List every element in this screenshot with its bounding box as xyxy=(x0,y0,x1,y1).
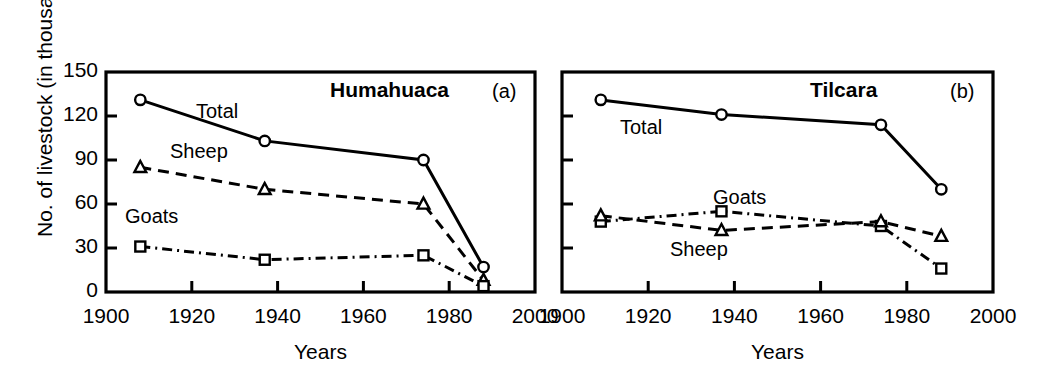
series-label-goats: Goats xyxy=(713,186,766,209)
series-label-total: Total xyxy=(196,100,238,123)
y-tick-label: 60 xyxy=(40,190,98,214)
data-point-marker-circle xyxy=(478,262,488,272)
data-point-marker-triangle xyxy=(935,230,947,241)
data-point-marker-square xyxy=(260,255,270,265)
data-point-marker-triangle xyxy=(595,209,607,220)
data-point-marker-circle xyxy=(418,155,428,165)
x-tick-label: 1900 xyxy=(527,304,597,328)
x-tick-label: 1980 xyxy=(872,304,942,328)
data-point-marker-square xyxy=(479,281,489,291)
data-point-marker-circle xyxy=(716,109,726,119)
x-tick-label: 1980 xyxy=(414,304,484,328)
x-tick-label: 1920 xyxy=(157,304,227,328)
series-label-goats: Goats xyxy=(125,205,178,228)
data-point-marker-square xyxy=(876,221,886,231)
data-point-marker-square xyxy=(936,264,946,274)
plot-frame xyxy=(562,72,993,292)
x-tick-label: 1900 xyxy=(71,304,141,328)
panel-title-humahuaca: Humahuaca xyxy=(330,78,449,102)
y-tick-label: 120 xyxy=(40,102,98,126)
data-point-marker-triangle xyxy=(134,161,146,172)
y-tick-label: 0 xyxy=(40,278,98,302)
data-point-marker-circle xyxy=(260,136,270,146)
data-point-marker-triangle xyxy=(875,215,887,226)
data-point-marker-square xyxy=(596,217,606,227)
x-tick-label: 1960 xyxy=(786,304,856,328)
figure-root: No. of livestock (in thousands) Humahuac… xyxy=(0,0,1045,386)
x-axis-title: Years xyxy=(276,340,366,364)
data-point-marker-circle xyxy=(876,120,886,130)
x-tick-label: 1920 xyxy=(613,304,683,328)
y-tick-label: 90 xyxy=(40,146,98,170)
data-point-marker-triangle xyxy=(478,274,490,285)
data-point-marker-circle xyxy=(936,184,946,194)
plot-canvas xyxy=(0,0,1045,386)
panel-tag-b: (b) xyxy=(950,80,974,103)
series-line-sheep xyxy=(140,167,483,280)
x-tick-label: 1940 xyxy=(699,304,769,328)
series-label-sheep: Sheep xyxy=(670,238,728,261)
series-line-total xyxy=(601,100,942,189)
data-point-marker-square xyxy=(135,242,145,252)
series-label-total: Total xyxy=(620,116,662,139)
data-point-marker-square xyxy=(418,250,428,260)
y-tick-label: 150 xyxy=(40,58,98,82)
y-tick-label: 30 xyxy=(40,234,98,258)
panel-title-tilcara: Tilcara xyxy=(810,78,877,102)
data-point-marker-triangle xyxy=(418,198,430,209)
plot-frame xyxy=(106,72,535,292)
data-point-marker-circle xyxy=(135,95,145,105)
series-line-sheep xyxy=(601,216,942,237)
data-point-marker-triangle xyxy=(259,183,271,194)
series-label-sheep: Sheep xyxy=(170,140,228,163)
x-tick-label: 2000 xyxy=(958,304,1028,328)
series-line-total xyxy=(140,100,483,267)
x-axis-title: Years xyxy=(733,340,823,364)
data-point-marker-circle xyxy=(596,95,606,105)
x-tick-label: 1940 xyxy=(243,304,313,328)
data-point-marker-triangle xyxy=(716,224,728,235)
series-line-goats xyxy=(140,247,483,287)
series-line-goats xyxy=(601,211,942,268)
panel-tag-a: (a) xyxy=(492,80,516,103)
y-axis-title-wrapper: No. of livestock (in thousands) xyxy=(8,60,42,290)
plot-canvas xyxy=(0,0,1045,386)
x-tick-label: 1960 xyxy=(328,304,398,328)
